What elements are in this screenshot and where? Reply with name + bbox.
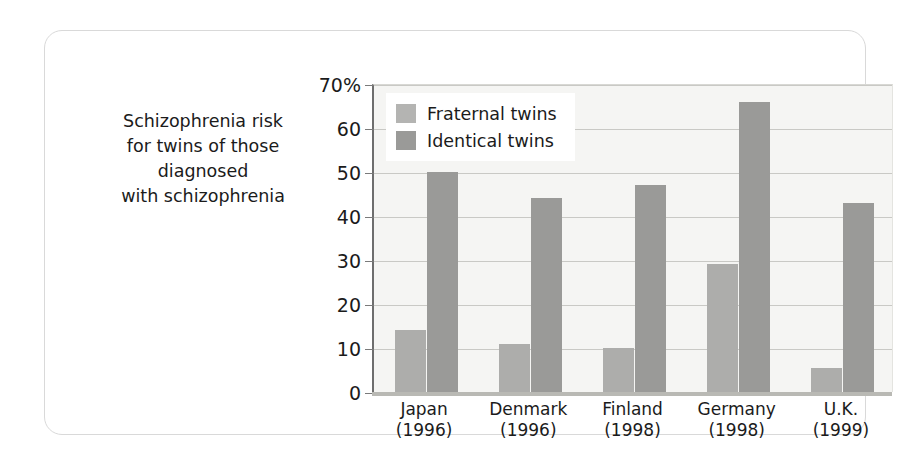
x-axis-label: U.K.(1999) — [781, 399, 901, 441]
y-axis-tick — [365, 261, 374, 262]
y-axis-label: 30 — [337, 250, 361, 272]
y-axis-tick — [365, 349, 374, 350]
caption-line-2: for twins of those — [103, 134, 303, 159]
y-axis-label: 0 — [349, 382, 361, 404]
x-axis-baseline — [372, 392, 892, 396]
bar-identical — [531, 198, 562, 392]
x-axis-label-country: Germany — [677, 399, 797, 420]
x-axis-label: Denmark(1996) — [468, 399, 588, 441]
legend-swatch-identical-icon — [396, 131, 416, 150]
legend-item-fraternal: Fraternal twins — [396, 100, 557, 127]
x-axis-label: Japan(1996) — [364, 399, 484, 441]
x-axis-label: Finland(1998) — [573, 399, 693, 441]
caption-line-4: with schizophrenia — [103, 184, 303, 209]
y-axis-label: 20 — [337, 294, 361, 316]
x-axis-label-country: Denmark — [468, 399, 588, 420]
bar-fraternal — [811, 368, 842, 392]
x-axis-label: Germany(1998) — [677, 399, 797, 441]
x-axis-label-year: (1998) — [677, 420, 797, 441]
caption-line-3: diagnosed — [103, 159, 303, 184]
x-axis-label-year: (1996) — [364, 420, 484, 441]
y-axis-tick — [365, 129, 374, 130]
x-axis-label-year: (1999) — [781, 420, 901, 441]
chart-caption: Schizophrenia risk for twins of those di… — [103, 109, 303, 209]
legend-label-identical: Identical twins — [427, 131, 554, 151]
bar-identical — [635, 185, 666, 392]
chart-legend: Fraternal twins Identical twins — [386, 93, 575, 161]
legend-swatch-fraternal-icon — [396, 104, 416, 123]
legend-label-fraternal: Fraternal twins — [427, 104, 557, 124]
legend-item-identical: Identical twins — [396, 127, 557, 154]
x-axis-label-country: U.K. — [781, 399, 901, 420]
y-axis-tick — [365, 173, 374, 174]
gridline — [374, 85, 892, 86]
y-axis-label: 40 — [337, 206, 361, 228]
x-axis-label-country: Finland — [573, 399, 693, 420]
x-axis-label-year: (1996) — [468, 420, 588, 441]
y-axis-tick — [365, 85, 374, 86]
figure-card: Schizophrenia risk for twins of those di… — [44, 30, 866, 435]
y-axis-label: 50 — [337, 162, 361, 184]
bar-identical — [739, 102, 770, 392]
bar-identical — [427, 172, 458, 392]
y-axis-tick — [365, 305, 374, 306]
y-axis-label: 60 — [337, 118, 361, 140]
bar-fraternal — [395, 330, 426, 392]
bar-fraternal — [603, 348, 634, 392]
bar-fraternal — [707, 264, 738, 392]
x-axis-label-country: Japan — [364, 399, 484, 420]
caption-line-1: Schizophrenia risk — [103, 109, 303, 134]
y-axis-tick — [365, 217, 374, 218]
y-axis-label: 10 — [337, 338, 361, 360]
y-axis-label: 70% — [319, 74, 361, 96]
bar-identical — [843, 203, 874, 392]
x-axis-label-year: (1998) — [573, 420, 693, 441]
bar-fraternal — [499, 344, 530, 392]
